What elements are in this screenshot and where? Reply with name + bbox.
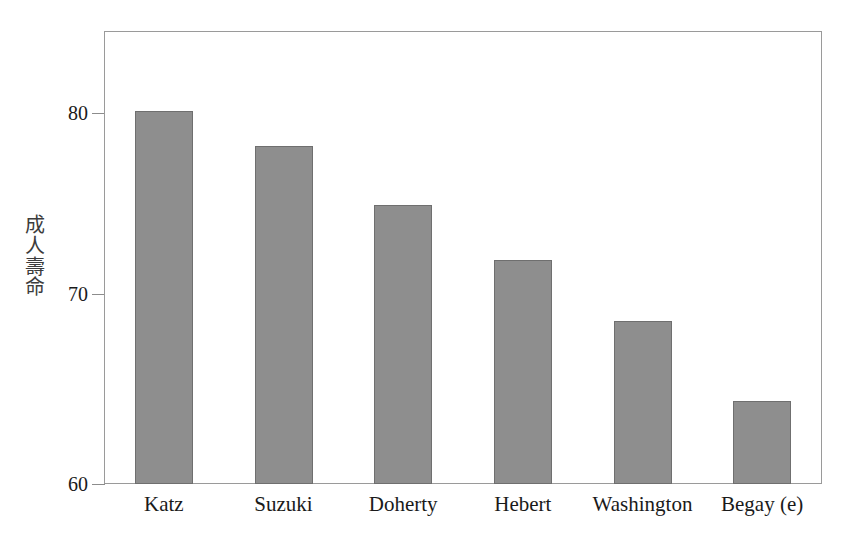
bar-hebert[interactable] (494, 260, 552, 484)
y-axis-title-char-1: 成 (25, 215, 45, 236)
bar-katz[interactable] (135, 111, 193, 484)
bars-layer (104, 31, 822, 484)
bar-washington[interactable] (614, 321, 672, 484)
x-tick-label-begay: Begay (e) (721, 492, 803, 517)
bar-chart-figure: 成 人 壽 命 80 70 60 Katz Suzuki Doherty Heb… (0, 0, 856, 554)
x-tick-label-suzuki: Suzuki (254, 492, 312, 517)
bar-begay[interactable] (733, 401, 791, 484)
y-tick-label-70: 70 (32, 283, 88, 306)
x-tick-label-doherty: Doherty (369, 492, 438, 517)
x-axis-tick-labels: Katz Suzuki Doherty Hebert Washington Be… (104, 492, 822, 524)
y-axis-title-char-2: 人 (25, 236, 45, 257)
x-tick-label-hebert: Hebert (494, 492, 551, 517)
x-tick-label-washington: Washington (593, 492, 693, 517)
y-tick-mark-60 (92, 484, 105, 485)
bar-suzuki[interactable] (255, 146, 313, 484)
y-tick-label-80: 80 (32, 102, 88, 125)
bar-doherty[interactable] (374, 205, 432, 484)
x-tick-label-katz: Katz (144, 492, 184, 517)
y-tick-label-60: 60 (32, 473, 88, 496)
y-axis-title-char-3: 壽 (25, 257, 45, 278)
